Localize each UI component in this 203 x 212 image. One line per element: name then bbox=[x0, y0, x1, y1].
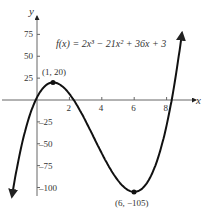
x-tick-label: 4 bbox=[99, 103, 104, 113]
min-point-label: (6, −105) bbox=[115, 198, 149, 208]
y-tick-label: 50 bbox=[24, 51, 34, 61]
y-axis-label: y bbox=[28, 5, 34, 17]
equation-label: f(x) = 2x³ − 21x² + 36x + 3 bbox=[56, 38, 166, 50]
y-tick-label: –25 bbox=[38, 117, 53, 127]
max-point-label: (1, 20) bbox=[42, 67, 66, 77]
max-point-marker bbox=[51, 80, 56, 85]
x-tick-label: 2 bbox=[66, 103, 71, 113]
x-tick-label: 6 bbox=[131, 103, 136, 113]
x-tick-label: 8 bbox=[164, 103, 169, 113]
y-tick-label: 25 bbox=[24, 73, 34, 83]
y-tick-label: –100 bbox=[38, 183, 58, 193]
y-tick-label: –50 bbox=[38, 139, 53, 149]
y-tick-label: 75 bbox=[24, 29, 34, 39]
function-graph: 2468755025–25–50–75–100 y x f(x) = 2x³ −… bbox=[0, 0, 203, 212]
x-axis-label: x bbox=[195, 94, 201, 106]
y-tick-label: –75 bbox=[38, 161, 53, 171]
tick-labels: 2468755025–25–50–75–100 bbox=[24, 29, 169, 192]
min-point-marker bbox=[132, 190, 137, 195]
